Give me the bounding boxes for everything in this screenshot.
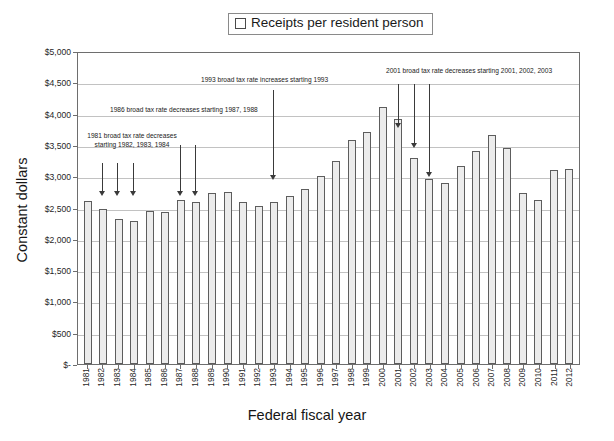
x-axis-tick-mark — [399, 365, 400, 369]
y-axis-tick-label: $4,500 — [25, 78, 71, 88]
x-axis-tick-mark — [258, 365, 259, 369]
arrow-head — [130, 191, 136, 196]
x-axis-tick-mark — [555, 365, 556, 369]
x-axis-tick-label: 2005 — [455, 368, 469, 387]
x-axis-tick-label: 1986 — [159, 368, 173, 387]
plot-area — [77, 52, 580, 365]
y-axis-tick-label: $4,000 — [25, 110, 71, 120]
x-axis-tick-mark — [367, 365, 368, 369]
arrow-1982-icon — [99, 163, 106, 196]
arrow-shaft — [429, 84, 430, 173]
bar[interactable] — [332, 161, 340, 364]
bar[interactable] — [503, 148, 511, 364]
arrow-2003-icon — [426, 84, 433, 177]
bar[interactable] — [425, 179, 433, 364]
x-axis-tick-mark — [243, 365, 244, 369]
bar-slot — [111, 53, 127, 364]
bar-slot — [344, 53, 360, 364]
bar[interactable] — [379, 107, 387, 364]
bar-slot — [468, 53, 484, 364]
x-axis-tick-label: 1983 — [112, 368, 126, 387]
bar-slot — [96, 53, 112, 364]
arrow-head — [177, 191, 183, 196]
bar-slot — [158, 53, 174, 364]
x-axis-tick-label: 1992 — [252, 368, 266, 387]
x-axis-tick-mark — [383, 365, 384, 369]
bar[interactable] — [115, 219, 123, 364]
bar[interactable] — [239, 202, 247, 364]
y-axis-tick-label: $3,000 — [25, 172, 71, 182]
bar-slot — [189, 53, 205, 364]
x-axis-tick-mark — [149, 365, 150, 369]
x-axis-tick-mark — [134, 365, 135, 369]
bar[interactable] — [565, 169, 573, 364]
x-axis-tick-label: 2000 — [377, 368, 391, 387]
bar[interactable] — [410, 158, 418, 364]
bar[interactable] — [363, 132, 371, 364]
bar[interactable] — [441, 183, 449, 364]
bar-slot — [499, 53, 515, 364]
x-axis-tick-label: 1998 — [346, 368, 360, 387]
x-axis-tick-mark — [321, 365, 322, 369]
y-axis-tick-label: $- — [25, 360, 71, 370]
bar[interactable] — [301, 189, 309, 364]
arrow-head — [192, 191, 198, 196]
arrow-2001-icon — [395, 84, 402, 128]
y-axis-tick-label: $2,500 — [25, 204, 71, 214]
y-axis-tick-mark — [73, 302, 77, 303]
arrow-head — [411, 143, 417, 148]
bar[interactable] — [99, 209, 107, 364]
x-axis-tick-mark — [414, 365, 415, 369]
arrow-1987-icon — [177, 145, 184, 196]
x-axis-tick-label: 2010 — [533, 368, 547, 387]
bar[interactable] — [394, 119, 402, 364]
bar[interactable] — [224, 192, 232, 364]
arrow-shaft — [102, 163, 103, 192]
x-axis-tick-label: 1988 — [190, 368, 204, 387]
y-axis-tick-label: $5,000 — [25, 47, 71, 57]
x-axis-tick-label: 2003 — [424, 368, 438, 387]
bar[interactable] — [348, 140, 356, 364]
x-axis-tick-mark — [508, 365, 509, 369]
annotation-2001: 2001 broad tax rate decreases starting 2… — [386, 67, 552, 76]
bar[interactable] — [192, 202, 200, 364]
bar[interactable] — [130, 221, 138, 364]
bar[interactable] — [270, 202, 278, 364]
arrow-1984-icon — [130, 163, 137, 196]
x-axis-tick-mark — [570, 365, 571, 369]
x-axis-tick-mark — [461, 365, 462, 369]
bar[interactable] — [146, 211, 154, 364]
bar[interactable] — [177, 200, 185, 364]
x-axis-tick-label: 2008 — [502, 368, 516, 387]
bar[interactable] — [457, 166, 465, 364]
y-axis-tick-mark — [73, 146, 77, 147]
bar[interactable] — [488, 135, 496, 364]
bar[interactable] — [208, 193, 216, 364]
y-axis-tick-label: $1,000 — [25, 297, 71, 307]
x-axis-tick-mark — [352, 365, 353, 369]
bar[interactable] — [534, 200, 542, 364]
bar[interactable] — [317, 176, 325, 364]
bar[interactable] — [286, 196, 294, 364]
bar[interactable] — [255, 206, 263, 364]
bar[interactable] — [550, 170, 558, 364]
x-axis-tick-label: 2004 — [439, 368, 453, 387]
bar-slot — [173, 53, 189, 364]
arrow-shaft — [117, 163, 118, 192]
bar[interactable] — [161, 212, 169, 364]
x-axis-tick-label: 1989 — [206, 368, 220, 387]
bar-slot — [127, 53, 143, 364]
annotation-1981: 1981 broad tax rate decreases starting 1… — [78, 132, 186, 150]
bar[interactable] — [472, 151, 480, 364]
x-axis-tick-label: 2009 — [517, 368, 531, 387]
chart-container: Receipts per resident person Constant do… — [0, 0, 614, 441]
y-axis-tick-label: $500 — [25, 329, 71, 339]
bar[interactable] — [519, 193, 527, 364]
x-axis-tick-mark — [290, 365, 291, 369]
arrow-1983-icon — [114, 163, 121, 196]
x-axis-tick-mark — [492, 365, 493, 369]
bar-slot — [546, 53, 562, 364]
bar[interactable] — [84, 201, 92, 364]
arrow-2002-icon — [411, 84, 418, 148]
arrow-1993-icon — [270, 90, 277, 180]
